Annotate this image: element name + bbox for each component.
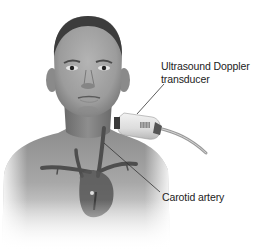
illustration-canvas	[0, 0, 253, 250]
medical-illustration: Ultrasound Doppler transducer Carotid ar…	[0, 0, 253, 250]
transducer-tip	[114, 117, 120, 129]
fade-overlay	[0, 200, 253, 250]
label-ultrasound-doppler-transducer: Ultrasound Doppler transducer	[161, 60, 250, 86]
head	[54, 16, 122, 117]
label-carotid-artery: Carotid artery	[162, 191, 224, 204]
label-transducer-line1: Ultrasound Doppler	[161, 60, 250, 73]
transducer-cable	[158, 128, 206, 153]
label-transducer-line2: transducer	[161, 73, 250, 86]
transducer-leader-line	[137, 84, 164, 114]
